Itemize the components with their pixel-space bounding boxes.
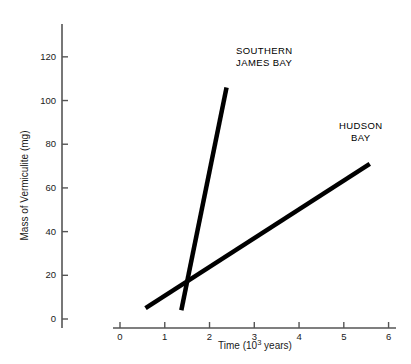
y-axis-title: Mass of Vermiculite (mg) bbox=[19, 86, 30, 286]
y-axis-ticks bbox=[62, 57, 68, 319]
y-tick-label: 120 bbox=[14, 52, 56, 62]
series-label-hudson-bay: HUDSON BAY bbox=[339, 120, 383, 144]
y-tick-label: 0 bbox=[14, 314, 56, 324]
x-tick-label: 6 bbox=[386, 332, 391, 342]
x-tick-label: 1 bbox=[162, 332, 167, 342]
x-axis-title: Time (103 years) bbox=[175, 340, 335, 351]
series-label-line-1: HUDSON bbox=[339, 120, 383, 132]
x-tick-label: 5 bbox=[341, 332, 346, 342]
x-tick-label: 0 bbox=[117, 332, 122, 342]
x-axis-title-prefix: Time (10 bbox=[218, 340, 257, 351]
x-axis-title-suffix: years) bbox=[261, 340, 292, 351]
plot-canvas bbox=[0, 0, 411, 364]
data-series-lines bbox=[146, 87, 370, 310]
series-line-hudson-bay bbox=[146, 164, 370, 308]
series-label-southern-james-bay: SOUTHERN JAMES BAY bbox=[236, 45, 293, 69]
series-label-line-1: SOUTHERN bbox=[236, 45, 293, 57]
series-label-line-2: JAMES BAY bbox=[236, 57, 293, 69]
x-axis-ticks bbox=[120, 322, 389, 328]
series-line-southern-james-bay bbox=[181, 87, 226, 310]
series-label-line-2: BAY bbox=[339, 132, 383, 144]
vermiculite-mass-chart: 020406080100120 0123456 Mass of Vermicul… bbox=[0, 0, 411, 364]
axes-group bbox=[62, 24, 396, 328]
